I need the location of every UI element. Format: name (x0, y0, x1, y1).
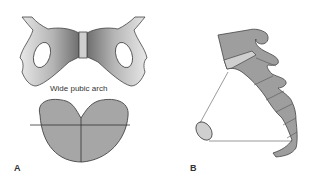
pelvic-inlet-outline (30, 99, 130, 162)
pelvic-inlet-ellipse (193, 119, 216, 143)
pubic-symphysis (79, 32, 87, 58)
pubic-arch-caption: Wide pubic arch (50, 84, 107, 93)
pelvis-front-view (20, 17, 147, 86)
sacrum-coccyx-lateral-view (218, 29, 297, 157)
panel-b-label: B (190, 163, 197, 173)
anatomy-diagram (0, 0, 310, 183)
panel-a-label: A (14, 163, 21, 173)
